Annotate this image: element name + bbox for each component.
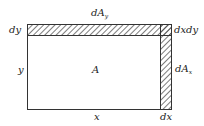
label-dx: dx (160, 112, 172, 122)
label-dy: dy (9, 25, 21, 35)
top-strip (28, 25, 172, 36)
label-A: A (92, 65, 99, 75)
label-y: y (18, 65, 24, 75)
right-strip (161, 25, 172, 110)
label-x: x (94, 112, 100, 122)
label-dAx: dAx (175, 64, 192, 75)
label-dAy: dAy (91, 8, 108, 19)
label-dxdy: dxdy (174, 25, 198, 35)
